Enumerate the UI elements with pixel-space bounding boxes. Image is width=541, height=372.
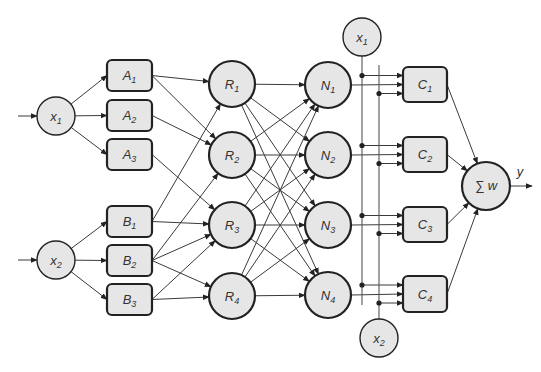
edge-x1-A1 [71,76,107,105]
neuro-fuzzy-diagram: x1x2A1A2A3B1B2B3R1R2R3R4N1N2N3N4C1C2C3C4… [0,0,541,372]
bus-tap-x2-C4 [376,300,381,305]
edge-C1-sum [447,85,477,164]
connection-edges [18,76,532,304]
edge-x2-B3 [71,272,107,300]
edge-B2-R3 [152,234,211,260]
edge-B2-R4 [152,261,211,287]
edge-x1-A3 [71,127,107,154]
edge-B3-R3 [152,241,215,300]
bus-tap-x1-C3 [359,213,364,218]
bus-tap-x2-C1 [376,91,381,96]
sum-node: ∑ w [462,162,510,210]
edge-A1-R1 [152,76,209,82]
edge-C2-sum [447,155,467,171]
edge-C4-sum [447,209,478,294]
bus-tap-x1-C1 [359,73,364,78]
bus-tap-x1-C2 [359,143,364,148]
bus-tap-x1-C4 [359,282,364,287]
output-label: y [516,164,525,179]
edge-A3-R3 [152,155,215,210]
edge-N4-C4 [351,294,403,295]
edge-R1-N1 [255,84,305,85]
sum-node-label: ∑ w [475,178,499,193]
edge-C3-sum [447,203,469,225]
edge-x2-B1 [71,222,107,249]
edge-A2-R2 [152,116,211,145]
edge-R4-N4 [255,295,305,296]
bus-tap-x2-C2 [376,161,381,166]
bus-tap-x2-C3 [376,231,381,236]
edge-N3-C3 [351,225,403,226]
input-bus-lines [359,56,381,319]
edge-B3-R4 [152,297,209,299]
edge-N1-C1 [351,85,403,86]
edge-N2-C2 [351,155,403,156]
